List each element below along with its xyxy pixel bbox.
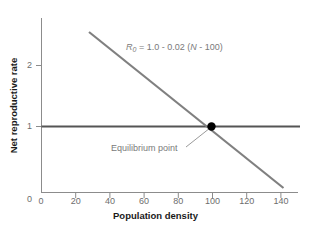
equilibrium-point-label: Equilibrium point xyxy=(111,143,178,153)
r0-density-dependence-line xyxy=(89,32,284,188)
x-tick-label-120: 120 xyxy=(236,196,258,206)
equation-tail: - 100) xyxy=(197,42,223,52)
x-tick-label-100: 100 xyxy=(202,196,224,206)
x-tick-label-60: 60 xyxy=(133,196,155,206)
equilibrium-point-marker xyxy=(207,122,215,130)
x-tick-label-20: 20 xyxy=(65,196,87,206)
x-axis-title: Population density xyxy=(0,210,311,221)
x-tick-label-80: 80 xyxy=(167,196,189,206)
y-tick-label-0: 0 xyxy=(6,194,32,204)
x-tick-label-0: 0 xyxy=(30,196,52,206)
equation-middle: = 1.0 - 0.02 ( xyxy=(136,42,190,52)
chart-figure: 2 1 0 0 20 40 60 80 100 120 140 Populati… xyxy=(0,0,311,230)
x-tick-label-40: 40 xyxy=(99,196,121,206)
y-axis-title: Net reproductive rate xyxy=(8,46,19,166)
x-tick-label-140: 140 xyxy=(270,196,292,206)
equilibrium-leader-line xyxy=(186,128,210,147)
equation-annotation: R0 = 1.0 - 0.02 (N - 100) xyxy=(126,42,223,53)
